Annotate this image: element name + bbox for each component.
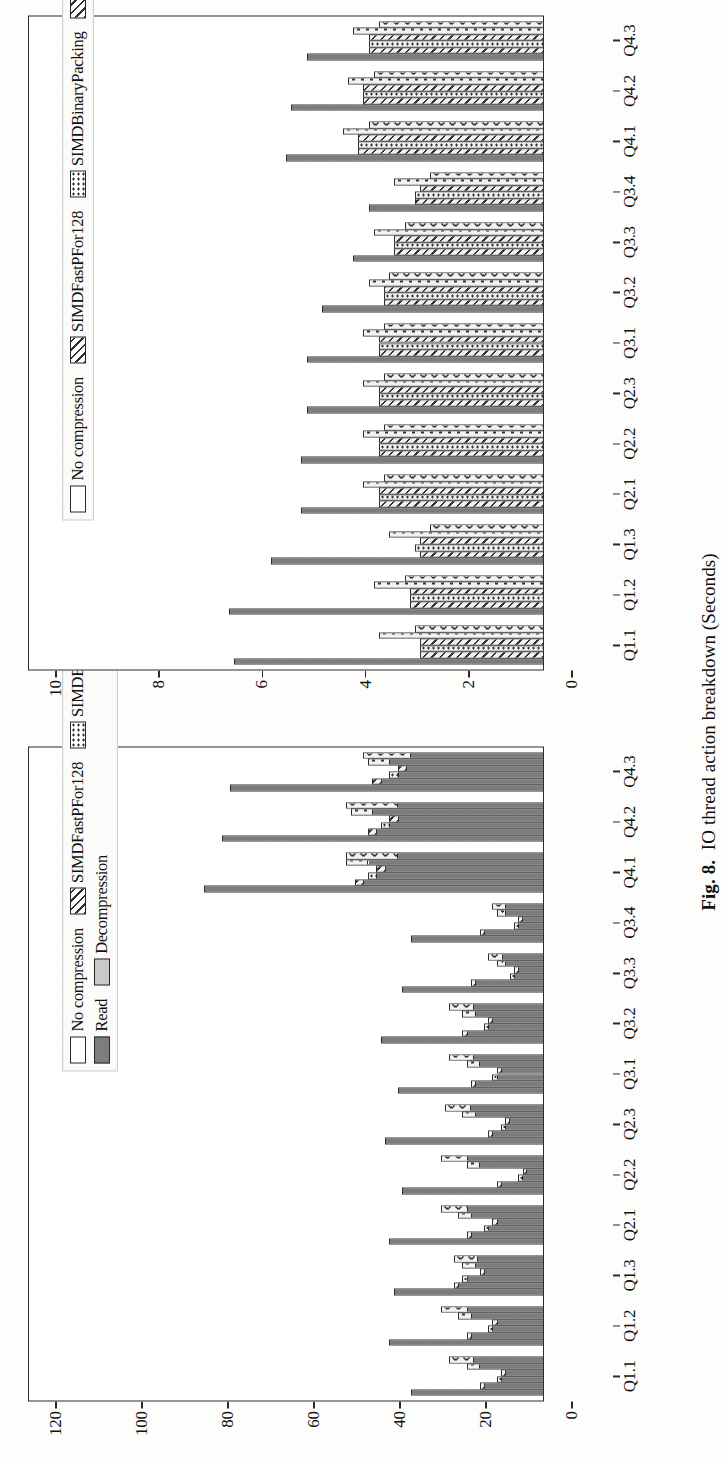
bar-fill [370,48,543,53]
bar-segment-read [377,873,543,878]
bar-fill [349,78,543,83]
bar-Q2.3-pfor [505,1117,544,1124]
x-tick-label: Q1.2 [620,578,639,610]
bar-fill [292,105,543,110]
bar-segment-read [468,1307,543,1312]
y-tick-mark [262,670,264,677]
bar-segment-read [364,880,543,885]
bar-fill [416,545,543,550]
y-tick-mark [55,670,57,677]
bar-segment-decompression [472,1081,476,1086]
x-tick-label: Q2.1 [620,478,639,510]
bar-segment-decompression [347,860,368,865]
y-tick-mark [313,1401,315,1408]
bar-segment-decompression [390,772,398,777]
x-tick-Q2.3: Q2.3 [613,1108,640,1140]
bar-fill [421,552,543,557]
bar-fill [416,199,543,204]
bar-fill [395,243,543,248]
bar-segment-decompression [455,1283,459,1288]
bar-Q3.4-sbp [415,191,544,198]
bar-Q3.2-vbyte [369,279,544,286]
bar-segment-read [498,1075,543,1080]
bar-Q1.1-sfp128 [480,1382,545,1389]
bar-segment-read [489,1024,543,1029]
x-tick-label: Q1.2 [620,1309,639,1341]
bar-Q3.2-pfor [488,1017,544,1024]
legend-item-sfp128: SIMDFastPFor128 [68,210,88,363]
bar-Q4.1-sbp [358,141,544,148]
bar-segment-read [480,1162,543,1167]
bar-Q3.3-pfor [514,966,544,973]
y-tick-label: 100 [132,1411,152,1435]
y-tick-mark [399,1401,401,1408]
bar-fill [421,652,543,657]
legend-swatch-pfor-icon [70,0,86,18]
legend-swatch-nocomp-icon [70,1036,86,1063]
bar-Q1.2-pfor [492,1319,544,1326]
x-tick-label: Q2.3 [620,1108,639,1140]
bar-segment-decompression [489,954,503,959]
bar-fill [344,129,543,134]
bar-segment-decompression [356,880,365,885]
legend-row-methods: No compressionSIMDFastPFor128SIMDBinaryP… [68,0,88,512]
y-tick-mark [227,1401,229,1408]
x-tick-label: Q2.1 [620,1209,639,1241]
y-tick-120: 120 [46,1401,66,1435]
bar-segment-read [498,1219,543,1224]
bar-Q1.1-sbp [420,645,544,652]
x-tick-Q1.2: Q1.2 [613,1309,640,1341]
bar-Q2.1-sbp [379,494,544,501]
bar-segment-decompression [489,1326,493,1331]
y-tick-60: 60 [304,1401,324,1427]
bar-fill [323,306,543,311]
bar-Q4.2-brotli [346,802,544,809]
legend-item-sbp: SIMDBinaryPacking [68,31,88,197]
bar-segment-read [468,1206,543,1211]
bar-Q4.1-pfor [376,865,544,872]
bar-segment-decompression [450,1004,474,1009]
bar-fill [375,72,543,77]
x-tick-Q4.2: Q4.2 [613,806,640,838]
bar-Q4.1-brotli [346,852,544,859]
bar-segment-decompression [519,917,523,922]
bar-fill [308,357,543,362]
bar-fill [406,223,543,228]
bar-fill [380,495,543,500]
bar-fill [308,54,543,59]
bar-Q2.3-vbyte [363,380,544,387]
bar-Q1.2-sbp [488,1325,544,1332]
caption-row: Fig. 8. IO thread action breakdown (Seco… [640,0,728,1463]
bar-Q1.1-sfp128 [420,651,544,658]
bar-segment-read [476,1011,543,1016]
y-tick-label: 8 [149,680,169,688]
bar-Q2.3-sfp128 [379,399,544,406]
y-tick-label: 60 [304,1411,324,1427]
bar-fill [431,173,543,178]
x-tick-mark [613,443,620,445]
bar-segment-decompression [481,930,485,935]
bar-segment-decompression [493,1219,497,1224]
bar-segment-read [412,1390,543,1395]
bar-segment-decompression [463,1011,476,1016]
bar-fill [390,273,543,278]
bar-segment-decompression [498,1068,502,1073]
x-tick-Q2.1: Q2.1 [613,1209,640,1241]
bar-fill [411,595,543,600]
bar-fill [385,475,543,480]
bar-segment-decompression [463,1031,467,1036]
bar-segment-read [498,1320,543,1325]
bar-fill [380,400,543,405]
bar-segment-decompression [519,1175,523,1180]
bar-Q4.1-vbyte [343,128,544,135]
bar-Q1.2-vbyte [374,581,544,588]
bar-fill [370,35,543,40]
x-tick-mark [613,1274,620,1276]
bar-segment-decompression [399,766,407,771]
bar-fill [385,300,543,305]
bar-segment-read [489,1226,543,1231]
figure-caption-text: IO thread action breakdown (Seconds) [698,553,719,850]
bar-segment-decompression [485,1024,489,1029]
x-tick-label: Q1.1 [620,1360,639,1392]
bar-segment-decompression [369,829,378,834]
